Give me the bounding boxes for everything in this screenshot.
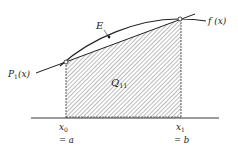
x0-label: x0 [59,122,68,133]
error-leader [104,30,108,36]
trapezoid-diagram: E f (x) P1(x) Q11 x0 = a x1 = b [0,0,238,152]
x1-equals-b: = b [174,135,189,145]
x1-label: x1 [176,122,185,133]
error-point [108,36,111,39]
x0-equals-a: = a [59,135,74,145]
chord-label: P1(x) [7,69,30,80]
point-x1 [178,17,182,21]
error-label: E [95,20,104,31]
point-x0 [64,60,68,64]
area-region-q11 [66,19,181,118]
curve-label: f (x) [207,16,227,26]
